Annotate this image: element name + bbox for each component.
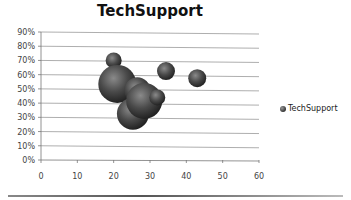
x-tick-label: 0 — [38, 172, 43, 181]
bubble-chart-plot: 0%10%20%30%40%50%60%70%80%90%01020304050… — [0, 0, 351, 200]
x-tick-label: 20 — [109, 172, 119, 181]
legend-label: TechSupport — [288, 104, 338, 113]
bubble-point[interactable] — [157, 62, 175, 80]
x-tick-label: 40 — [181, 172, 191, 181]
x-tick-label: 50 — [218, 172, 228, 181]
divider — [8, 195, 343, 197]
y-tick-label: 60% — [17, 71, 35, 80]
y-tick-label: 70% — [17, 56, 35, 65]
y-tick-label: 40% — [17, 99, 35, 108]
y-tick-label: 0% — [22, 156, 35, 165]
y-tick-label: 30% — [17, 113, 35, 122]
legend-marker-icon — [280, 106, 286, 112]
x-tick-label: 30 — [145, 172, 155, 181]
y-tick-label: 10% — [17, 142, 35, 151]
y-tick-label: 90% — [17, 28, 35, 37]
y-tick-label: 50% — [17, 85, 35, 94]
y-tick-label: 80% — [17, 42, 35, 51]
y-tick-label: 20% — [17, 128, 35, 137]
x-tick-label: 10 — [72, 172, 82, 181]
bubble-point[interactable] — [149, 89, 165, 105]
legend: TechSupport — [280, 104, 338, 113]
bubble-point[interactable] — [188, 69, 206, 87]
x-tick-label: 60 — [254, 172, 264, 181]
